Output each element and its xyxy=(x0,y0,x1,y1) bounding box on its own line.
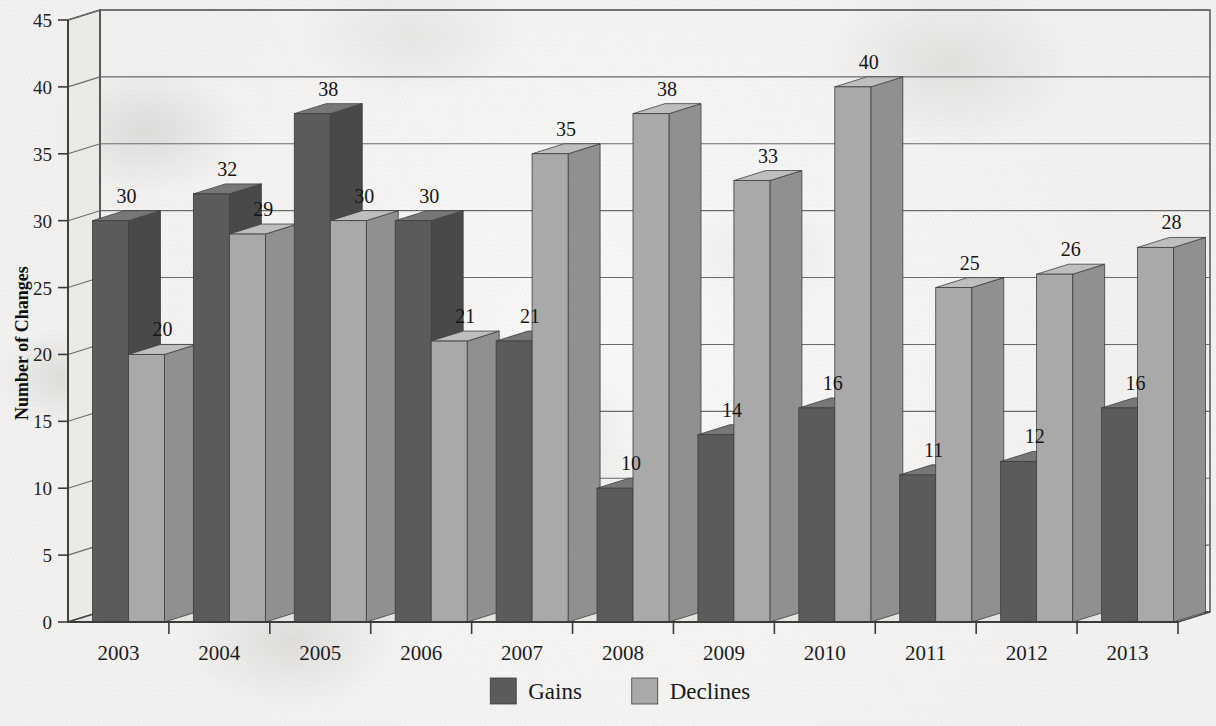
y-axis-tick-label: 30 xyxy=(33,211,52,232)
value-label-declines: 25 xyxy=(960,252,980,274)
bar-declines-2006[interactable] xyxy=(431,331,499,622)
bar-front-face xyxy=(330,221,366,622)
bar-declines-2011[interactable] xyxy=(936,278,1004,622)
bar-chart-3d: 051015202530354045 Number of Changes 302… xyxy=(0,0,1216,726)
bar-front-face xyxy=(1138,247,1174,622)
bar-side-face xyxy=(467,331,499,622)
value-label-gains: 38 xyxy=(318,78,338,100)
bar-front-face xyxy=(193,194,229,622)
y-axis-title: Number of Changes xyxy=(12,266,32,420)
value-label-declines: 40 xyxy=(859,51,879,73)
y-axis-tick-label: 25 xyxy=(33,278,52,299)
value-label-declines: 30 xyxy=(354,185,374,207)
bar-declines-2010[interactable] xyxy=(835,77,903,622)
x-axis-category-label: 2011 xyxy=(905,641,946,665)
bar-front-face xyxy=(496,341,532,622)
bar-side-face xyxy=(1073,264,1105,622)
value-label-declines: 29 xyxy=(253,198,273,220)
bar-front-face xyxy=(1102,408,1138,622)
bar-side-face xyxy=(972,278,1004,622)
bar-declines-2007[interactable] xyxy=(532,144,600,622)
bar-side-face xyxy=(1174,237,1206,622)
value-label-declines: 21 xyxy=(455,305,475,327)
bar-front-face xyxy=(799,408,835,622)
x-axis-category-label: 2006 xyxy=(400,641,442,665)
legend-swatch-gains[interactable] xyxy=(490,678,516,704)
chart-page: 051015202530354045 Number of Changes 302… xyxy=(0,0,1216,726)
value-label-gains: 11 xyxy=(924,439,943,461)
category-labels: 2003200420052006200720082009201020112012… xyxy=(97,641,1148,665)
x-axis-category-label: 2004 xyxy=(198,641,241,665)
y-axis-tick-label: 10 xyxy=(33,478,52,499)
y-axis-tick-label: 45 xyxy=(33,10,52,31)
bar-front-face xyxy=(229,234,265,622)
bar-front-face xyxy=(900,475,936,622)
value-label-declines: 38 xyxy=(657,78,677,100)
x-axis-category-label: 2009 xyxy=(703,641,745,665)
bar-declines-2008[interactable] xyxy=(633,104,701,622)
bar-front-face xyxy=(92,221,128,622)
value-label-gains: 32 xyxy=(217,158,237,180)
y-axis-tick-label: 5 xyxy=(43,545,53,566)
bar-declines-2009[interactable] xyxy=(734,171,802,622)
y-axis-tick-label: 35 xyxy=(33,144,52,165)
y-axis: 051015202530354045 xyxy=(33,10,68,633)
value-label-declines: 28 xyxy=(1162,211,1182,233)
bars-layer xyxy=(92,77,1205,622)
bar-front-face xyxy=(128,354,164,622)
value-label-declines: 20 xyxy=(152,318,172,340)
bar-declines-2004[interactable] xyxy=(229,224,297,622)
x-axis-category-label: 2005 xyxy=(299,641,341,665)
bar-front-face xyxy=(835,87,871,622)
x-axis-category-label: 2007 xyxy=(501,641,543,665)
value-label-declines: 35 xyxy=(556,118,576,140)
bar-side-face xyxy=(871,77,903,622)
value-label-gains: 30 xyxy=(419,185,439,207)
bar-front-face xyxy=(597,488,633,622)
value-label-gains: 21 xyxy=(520,305,540,327)
bar-side-face xyxy=(164,344,196,622)
x-axis-category-label: 2008 xyxy=(602,641,644,665)
bar-side-face xyxy=(366,211,398,622)
y-axis-tick-label: 15 xyxy=(33,411,52,432)
bar-side-face xyxy=(568,144,600,622)
x-axis-category-label: 2010 xyxy=(804,641,846,665)
bar-front-face xyxy=(431,341,467,622)
value-label-gains: 16 xyxy=(823,372,843,394)
x-axis-category-label: 2013 xyxy=(1107,641,1149,665)
y-axis-tick-label: 0 xyxy=(43,612,53,633)
bar-front-face xyxy=(1001,461,1037,622)
value-label-gains: 14 xyxy=(722,399,742,421)
value-label-declines: 33 xyxy=(758,145,778,167)
bar-declines-2003[interactable] xyxy=(128,344,196,622)
bar-front-face xyxy=(395,221,431,622)
value-label-gains: 16 xyxy=(1126,372,1146,394)
bar-front-face xyxy=(1037,274,1073,622)
legend-swatch-declines[interactable] xyxy=(632,678,658,704)
bar-front-face xyxy=(532,154,568,622)
bar-front-face xyxy=(698,435,734,622)
legend-label-declines[interactable]: Declines xyxy=(670,679,751,704)
bar-front-face xyxy=(294,114,330,622)
value-label-gains: 30 xyxy=(116,185,136,207)
y-axis-tick-label: 40 xyxy=(33,77,52,98)
value-label-declines: 26 xyxy=(1061,238,1081,260)
legend-label-gains[interactable]: Gains xyxy=(528,679,582,704)
bar-declines-2012[interactable] xyxy=(1037,264,1105,622)
bar-declines-2013[interactable] xyxy=(1138,237,1206,622)
bar-side-face xyxy=(669,104,701,622)
bar-side-face xyxy=(265,224,297,622)
chart-legend[interactable]: GainsDeclines xyxy=(490,678,750,704)
bar-declines-2005[interactable] xyxy=(330,211,398,622)
bar-side-face xyxy=(770,171,802,622)
x-axis xyxy=(68,622,1178,634)
value-label-gains: 10 xyxy=(621,452,641,474)
value-label-gains: 12 xyxy=(1025,425,1045,447)
bar-front-face xyxy=(633,114,669,622)
x-axis-category-label: 2012 xyxy=(1006,641,1048,665)
y-axis-tick-label: 20 xyxy=(33,344,52,365)
x-axis-category-label: 2003 xyxy=(97,641,139,665)
